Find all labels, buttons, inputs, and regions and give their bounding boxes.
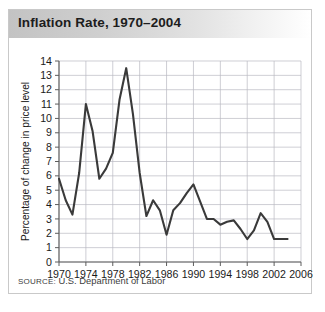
source-text: U.S. Department of Labor xyxy=(58,275,165,286)
y-tick-label: 9 xyxy=(46,126,52,138)
x-tick-label: 2002 xyxy=(262,268,286,280)
y-tick-label: 2 xyxy=(46,227,52,239)
tick-layer xyxy=(55,61,301,266)
page-title: Inflation Rate, 1970–2004 xyxy=(18,15,181,30)
y-tick-label: 5 xyxy=(46,184,52,196)
y-tick-label: 0 xyxy=(46,256,52,268)
y-tick-label: 8 xyxy=(46,141,52,153)
y-tick-label: 1 xyxy=(46,241,52,253)
y-tick-label: 14 xyxy=(40,55,52,67)
y-tick-label: 4 xyxy=(46,198,52,210)
grid-layer xyxy=(59,61,301,262)
y-tick-label: 11 xyxy=(41,98,52,110)
x-tick-label: 1998 xyxy=(235,268,259,280)
y-axis-title: Percentage of change in price level xyxy=(20,82,31,241)
y-tick-label: 13 xyxy=(40,69,52,81)
inflation-line-chart: 0123456789101112131419701974197819821986… xyxy=(9,38,313,295)
source-note: SOURCE: U.S. Department of Labor xyxy=(18,275,165,286)
chart-figure: Inflation Rate, 1970–2004 01234567891011… xyxy=(8,9,312,294)
source-label: SOURCE: xyxy=(18,277,56,286)
y-tick-label: 12 xyxy=(40,83,52,95)
plot-area: 0123456789101112131419701974197819821986… xyxy=(9,38,313,295)
inflation-series-line xyxy=(59,68,288,239)
x-tick-label: 2006 xyxy=(289,268,313,280)
axis-labels: 0123456789101112131419701974197819821986… xyxy=(40,55,313,280)
y-tick-label: 3 xyxy=(46,213,52,225)
x-tick-label: 1990 xyxy=(182,268,206,280)
y-tick-label: 10 xyxy=(40,112,52,124)
y-tick-label: 7 xyxy=(46,155,52,167)
y-tick-label: 6 xyxy=(46,169,52,181)
x-tick-label: 1994 xyxy=(209,268,233,280)
